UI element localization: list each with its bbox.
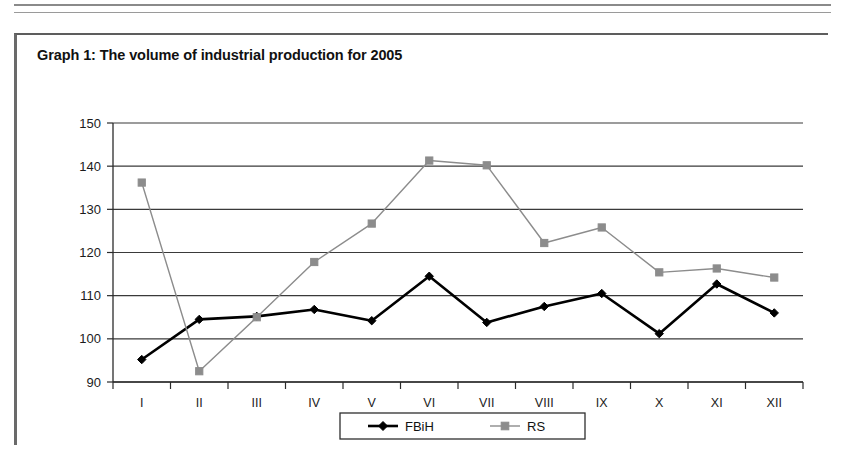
figure-container: Graph 1: The volume of industrial produc… <box>14 33 828 445</box>
page-title: Graph 1: The volume of industrial produc… <box>37 47 402 63</box>
page-rule-second <box>14 12 831 13</box>
page-rule-top <box>14 4 831 6</box>
